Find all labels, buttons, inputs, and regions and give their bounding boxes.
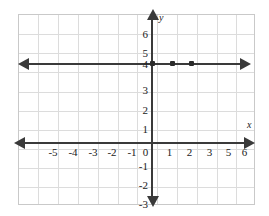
x-tick-label--1: -1 bbox=[125, 147, 139, 158]
x-tick-label--5: -5 bbox=[46, 147, 60, 158]
x-tick-label-1: 1 bbox=[165, 147, 174, 158]
y-axis bbox=[151, 16, 153, 200]
y-tick-label--3: -3 bbox=[126, 199, 148, 210]
gridline-vertical bbox=[38, 15, 39, 204]
y-tick-label-3: 3 bbox=[128, 85, 148, 96]
x-axis-label: x bbox=[247, 120, 251, 130]
gridline-vertical bbox=[217, 15, 218, 204]
y-axis-label: y bbox=[159, 13, 163, 23]
x-tick-label-5: 5 bbox=[224, 147, 233, 158]
coordinate-plane-figure: x y -5 -4 -3 -2 -1 0 1 2 3 5 6 6 5 4 3 2… bbox=[0, 0, 269, 216]
y-axis-up-arrow-icon bbox=[147, 9, 159, 20]
data-point-1-4 bbox=[170, 61, 175, 66]
gridline-vertical bbox=[157, 15, 158, 204]
gridline-vertical bbox=[236, 15, 237, 204]
data-point-2-4 bbox=[189, 61, 194, 66]
x-axis-left-arrow-icon bbox=[14, 137, 25, 149]
gridline-vertical bbox=[197, 15, 198, 204]
gridline-vertical bbox=[98, 15, 99, 204]
y-axis-down-arrow-icon bbox=[147, 196, 159, 207]
y-tick-label-1: 1 bbox=[128, 124, 148, 135]
y-tick-label-4: 4 bbox=[128, 59, 148, 70]
x-tick-label--2: -2 bbox=[105, 147, 119, 158]
x-tick-label--3: -3 bbox=[86, 147, 100, 158]
gridline-vertical bbox=[177, 15, 178, 204]
x-tick-label-6: 6 bbox=[240, 147, 249, 158]
x-tick-label-3: 3 bbox=[205, 147, 214, 158]
x-axis bbox=[19, 142, 250, 144]
x-tick-label--4: -4 bbox=[66, 147, 80, 158]
gridline-vertical bbox=[78, 15, 79, 204]
plot-line-right-arrow-icon bbox=[240, 58, 251, 70]
data-point-0-4 bbox=[150, 61, 155, 66]
y-tick-label-6: 6 bbox=[128, 29, 148, 40]
x-tick-label-0: 0 bbox=[141, 147, 150, 158]
gridline-horizontal bbox=[19, 72, 254, 73]
y-tick-label--1: -1 bbox=[126, 161, 148, 172]
x-tick-label-2: 2 bbox=[185, 147, 194, 158]
gridline-vertical bbox=[118, 15, 119, 204]
gridline-vertical bbox=[58, 15, 59, 204]
y-tick-label-2: 2 bbox=[128, 105, 148, 116]
y-tick-label--2: -2 bbox=[126, 180, 148, 191]
plot-line-left-arrow-icon bbox=[18, 58, 29, 70]
